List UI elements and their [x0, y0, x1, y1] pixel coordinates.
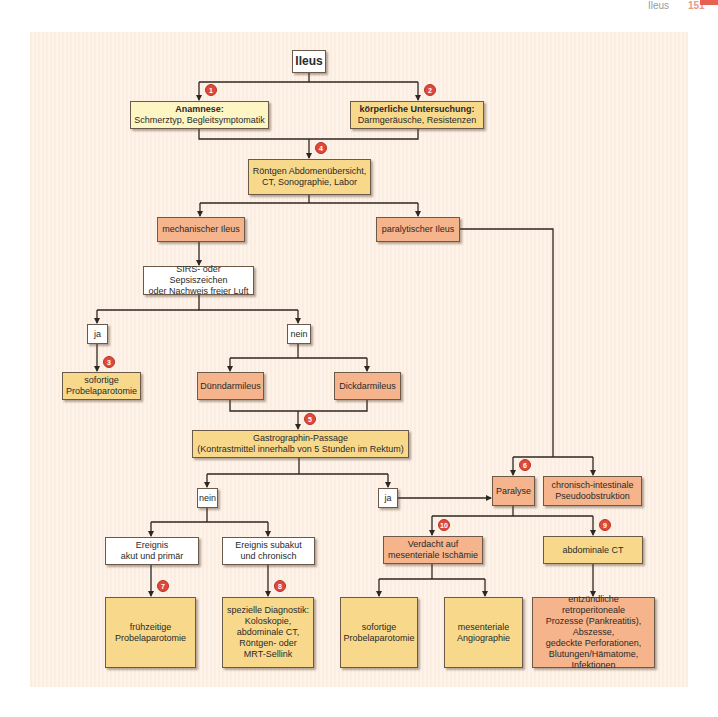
- node-sofortige2-line2: Probelaparotomie: [343, 633, 414, 644]
- node-fruehzeitige-probelaparotomie: frühzeitige Probelaparotomie: [105, 597, 196, 668]
- node-abd-ct-label: abdominale CT: [562, 545, 623, 556]
- node-duenndarm-label: Dünndarmileus: [200, 381, 261, 392]
- node-entz-line2: Prozesse (Pankreatitis),: [546, 616, 642, 627]
- node-paralytischer-ileus: paralytischer Ileus: [376, 217, 460, 242]
- step-badge-2: 2: [424, 84, 436, 96]
- node-chronisch-line2: Pseudoobstruktion: [555, 491, 630, 502]
- node-nein-2-label: nein: [199, 493, 216, 504]
- node-ja-1: ja: [87, 324, 108, 344]
- node-entz-line6: Infektionen: [571, 660, 615, 671]
- node-sofortige2-line1: sofortige: [362, 622, 397, 633]
- node-paralyse: Paralyse: [492, 476, 535, 506]
- node-duenndarmileus: Dünndarmileus: [197, 372, 264, 400]
- node-koerperlich-text: Darmgeräusche, Resistenzen: [358, 115, 477, 126]
- step-badge-8: 8: [274, 580, 286, 592]
- node-speziell-line4: Röntgen- oder: [239, 638, 297, 649]
- running-header-title: Ileus: [648, 0, 669, 11]
- node-akut-line1: Ereignis: [136, 540, 169, 551]
- node-verdacht-line2: mesenteriale Ischämie: [388, 550, 478, 561]
- node-angio-line1: mesenteriale: [458, 622, 510, 633]
- node-ileus-label: Ileus: [295, 56, 322, 67]
- node-paralytisch-label: paralytischer Ileus: [382, 224, 455, 235]
- node-ja-2-label: ja: [384, 493, 391, 504]
- step-badge-3: 3: [103, 356, 115, 368]
- node-paralyse-label: Paralyse: [496, 486, 531, 497]
- node-koerperlich-title: körperliche Untersuchung:: [359, 104, 474, 115]
- node-ereignis-akut: Ereignis akut und primär: [105, 537, 199, 565]
- node-entz-line1: entzündliche retroperitoneale: [536, 594, 651, 616]
- node-gastro-line2: (Kontrastmittel innerhalb von 5 Stunden …: [197, 444, 404, 455]
- node-entz-line4: gedeckte Perforationen,: [546, 638, 642, 649]
- node-ja-1-label: ja: [94, 329, 101, 340]
- node-roentgen-line2: CT, Sonographie, Labor: [262, 177, 357, 188]
- header-accent-bar: [700, 0, 718, 5]
- node-nein-2: nein: [197, 488, 218, 508]
- node-dickdarmileus: Dickdarmileus: [334, 372, 401, 400]
- node-abdominale-ct: abdominale CT: [543, 536, 643, 564]
- node-speziell-line5: MRT-Sellink: [244, 649, 292, 660]
- node-gastro-line1: Gastrographin-Passage: [253, 433, 348, 444]
- node-dickdarm-label: Dickdarmileus: [339, 381, 396, 392]
- node-sirs-line2: oder Nachweis freier Luft: [148, 286, 248, 297]
- node-sofortige1-line1: sofortige: [84, 375, 119, 386]
- node-speziell-line2: Koloskopie,: [245, 616, 292, 627]
- node-anamnese: Anamnese: Schmerztyp, Begleitsymptomatik: [130, 101, 269, 129]
- node-verdacht-mesenteriale-ischaemie: Verdacht auf mesenteriale Ischämie: [383, 536, 483, 564]
- node-sofortige-probelaparotomie-1: sofortige Probelaparotomie: [62, 372, 141, 400]
- node-sofortige-probelaparotomie-2: sofortige Probelaparotomie: [340, 597, 418, 668]
- node-sofortige1-line2: Probelaparotomie: [66, 386, 137, 397]
- diagram-panel: [30, 32, 688, 687]
- node-subakut-line2: und chronisch: [240, 551, 296, 562]
- node-speziell-line3: abdominale CT,: [237, 627, 300, 638]
- node-angio-line2: Angiographie: [457, 633, 510, 644]
- node-mesenteriale-angiographie: mesenteriale Angiographie: [444, 597, 523, 668]
- node-anamnese-text: Schmerztyp, Begleitsymptomatik: [134, 115, 265, 126]
- node-roentgen-line1: Röntgen Abdomenübersicht,: [253, 166, 367, 177]
- node-sirs: SIRS- oder Sepsiszeichen oder Nachweis f…: [143, 266, 254, 295]
- node-ileus: Ileus: [292, 50, 326, 73]
- step-badge-10: 10: [438, 519, 450, 531]
- node-nein-1: nein: [287, 324, 311, 344]
- node-ja-2: ja: [378, 488, 398, 508]
- node-mechanischer-ileus: mechanischer Ileus: [157, 217, 245, 242]
- node-akut-line2: akut und primär: [121, 551, 184, 562]
- step-badge-5: 5: [304, 413, 316, 425]
- step-badge-6: 6: [519, 459, 531, 471]
- node-roentgen: Röntgen Abdomenübersicht, CT, Sonographi…: [248, 159, 371, 195]
- node-entzuendliche-prozesse: entzündliche retroperitoneale Prozesse (…: [532, 597, 655, 668]
- node-ereignis-subakut: Ereignis subakut und chronisch: [222, 537, 315, 565]
- node-fruehzeitig-line1: frühzeitige: [130, 622, 172, 633]
- node-verdacht-line1: Verdacht auf: [408, 539, 459, 550]
- step-badge-9: 9: [599, 519, 611, 531]
- node-fruehzeitig-line2: Probelaparotomie: [115, 633, 186, 644]
- node-chronisch-line1: chronisch-intestinale: [551, 480, 633, 491]
- node-sirs-line1: SIRS- oder Sepsiszeichen: [147, 264, 250, 286]
- node-spezielle-diagnostik: spezielle Diagnostik: Koloskopie, abdomi…: [222, 597, 314, 668]
- node-chronisch-intestinale-pseudoobstruktion: chronisch-intestinale Pseudoobstruktion: [543, 476, 642, 506]
- node-nein-1-label: nein: [291, 329, 308, 340]
- node-anamnese-title: Anamnese:: [175, 104, 224, 115]
- node-gastrographin-passage: Gastrographin-Passage (Kontrastmittel in…: [192, 430, 409, 458]
- node-entz-line5: Blutungen/Hämatome,: [549, 649, 639, 660]
- step-badge-7: 7: [157, 580, 169, 592]
- node-mechanisch-label: mechanischer Ileus: [162, 224, 240, 235]
- node-speziell-line1: spezielle Diagnostik:: [227, 605, 309, 616]
- step-badge-4: 4: [315, 142, 327, 154]
- node-entz-line3: Abszesse,: [573, 627, 615, 638]
- node-koerperliche-untersuchung: körperliche Untersuchung: Darmgeräusche,…: [350, 101, 484, 129]
- step-badge-1: 1: [205, 84, 217, 96]
- node-subakut-line1: Ereignis subakut: [235, 540, 302, 551]
